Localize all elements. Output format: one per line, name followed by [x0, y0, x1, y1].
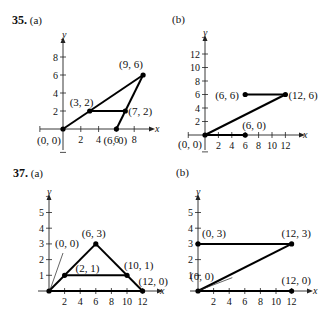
x-tick-label: 8 [258, 296, 263, 307]
x-tick-label: 2 [216, 140, 221, 151]
data-point [46, 288, 51, 293]
x-tick-label: 8 [256, 140, 261, 151]
y-tick-label: 4 [53, 88, 58, 99]
data-point [114, 126, 119, 131]
data-point [289, 241, 294, 246]
chart-37b: xy2468101212345(0, 0)(0, 3)(12, 3)(12, 0… [188, 186, 318, 307]
x-axis-label: x [154, 123, 160, 134]
y-tick-label: 4 [195, 103, 200, 114]
point-label: (0, 0) [178, 138, 202, 151]
x-tick-label: 10 [267, 140, 277, 151]
data-point [123, 108, 128, 113]
point-label: (12, 3) [282, 227, 312, 240]
point-label: (0, 0) [37, 134, 61, 147]
y-axis-label: y [61, 29, 67, 40]
x-tick-label: 10 [122, 296, 132, 307]
charts-canvas: xy24682468(0, 0)(3, 2)(9, 6)(7, 2)(6, 0)… [0, 0, 332, 321]
data-point [140, 288, 145, 293]
point-label: (2, 1) [76, 262, 100, 275]
x-axis-label: x [312, 285, 318, 296]
x-tick-label: 4 [229, 140, 234, 151]
y-axis-label: y [202, 27, 208, 38]
point-label: (6, 0) [103, 134, 127, 147]
data-point [289, 288, 294, 293]
y-tick-label: 2 [53, 106, 58, 117]
x-tick-label: 12 [138, 296, 148, 307]
data-point [62, 273, 67, 278]
y-tick-label: 2 [188, 254, 193, 265]
x-axis-label: x [302, 129, 308, 140]
point-label: (12, 0) [282, 274, 312, 287]
point-label: (9, 6) [119, 58, 143, 71]
x-tick-label: 2 [211, 296, 216, 307]
y-axis-label: y [46, 186, 52, 197]
x-tick-label: 4 [96, 134, 101, 145]
y-tick-label: 1 [39, 270, 44, 281]
x-tick-label: 4 [227, 296, 232, 307]
x-tick-label: 2 [78, 134, 83, 145]
x-tick-label: 6 [93, 296, 98, 307]
y-tick-label: 3 [39, 238, 44, 249]
data-point [243, 132, 248, 137]
point-label: (6, 6) [215, 89, 239, 102]
y-tick-label: 12 [190, 49, 200, 60]
data-point [202, 132, 207, 137]
point-label: (10, 1) [124, 259, 154, 272]
x-tick-label: 2 [62, 296, 67, 307]
y-tick-label: 2 [195, 116, 200, 127]
y-tick-label: 6 [53, 70, 58, 81]
point-label: (0, 3) [202, 227, 226, 240]
y-tick-label: 3 [188, 238, 193, 249]
x-tick-label: 8 [109, 296, 114, 307]
point-label: (6, 0) [242, 119, 266, 132]
y-axis-label: y [195, 186, 201, 197]
y-tick-label: 8 [53, 52, 58, 63]
y-tick-label: 5 [188, 207, 193, 218]
y-tick-label: 5 [39, 207, 44, 218]
chart-37a: xy2468101212345(0, 0)(2, 1)(6, 3)(10, 1)… [38, 186, 168, 307]
y-tick-label: 4 [188, 223, 193, 234]
data-point [195, 288, 200, 293]
point-label: (12, 0) [139, 275, 169, 288]
data-point [141, 72, 146, 77]
data-point [283, 92, 288, 97]
point-label: (6, 3) [82, 227, 106, 240]
x-tick-label: 6 [243, 140, 248, 151]
chart-35a: xy24682468(0, 0)(3, 2)(9, 6)(7, 2)(6, 0) [37, 29, 160, 152]
point-label: (0, 0) [190, 270, 214, 283]
data-point [124, 273, 129, 278]
point-label: (0, 0) [55, 237, 79, 250]
y-tick-label: 6 [195, 89, 200, 100]
x-tick-label: 6 [242, 296, 247, 307]
point-label: (12, 6) [288, 89, 318, 102]
x-tick-label: 10 [271, 296, 281, 307]
x-tick-label: 12 [287, 296, 297, 307]
x-tick-label: 8 [132, 134, 137, 145]
y-tick-label: 2 [39, 254, 44, 265]
y-tick-label: 8 [195, 76, 200, 87]
chart-35b: xy2468101224681012(0, 0)(6, 0)(6, 6)(12,… [178, 27, 318, 152]
data-point [93, 241, 98, 246]
x-tick-label: 4 [78, 296, 83, 307]
segment [198, 244, 292, 291]
point-label: (3, 2) [70, 96, 94, 109]
data-point [243, 92, 248, 97]
data-point [195, 241, 200, 246]
y-tick-label: 4 [39, 223, 44, 234]
point-label: (7, 2) [128, 105, 152, 118]
data-point [60, 126, 65, 131]
y-tick-label: 10 [190, 62, 200, 73]
data-point [87, 108, 92, 113]
x-tick-label: 12 [280, 140, 290, 151]
